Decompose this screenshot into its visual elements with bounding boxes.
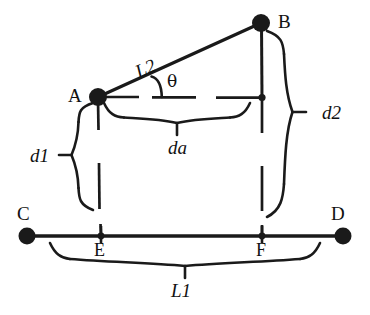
brace-d1 bbox=[59, 103, 93, 210]
dashed-horizontal-ag bbox=[100, 97, 261, 98]
point-label-c: C bbox=[17, 204, 30, 223]
angle-theta-arc bbox=[152, 77, 162, 98]
post-bg-solid bbox=[262, 23, 263, 98]
node-c-marker bbox=[19, 228, 36, 245]
point-label-b: B bbox=[278, 12, 291, 31]
dimension-label-d2: d2 bbox=[322, 103, 341, 122]
node-a-marker bbox=[89, 88, 107, 106]
brace-l1 bbox=[50, 243, 320, 278]
node-g-marker bbox=[258, 94, 265, 101]
dimension-label-da: da bbox=[168, 138, 187, 157]
node-e-marker bbox=[98, 233, 105, 240]
point-label-a: A bbox=[68, 86, 82, 105]
angle-label-theta: θ bbox=[167, 73, 177, 90]
beam-ab-l2 bbox=[98, 23, 261, 97]
node-b-marker bbox=[252, 14, 270, 32]
brace-d2 bbox=[267, 31, 306, 217]
point-label-f: F bbox=[256, 241, 266, 259]
geometry-diagram: A B C D E F L2 L1 d1 d2 da θ bbox=[0, 0, 370, 315]
point-label-d: D bbox=[331, 204, 345, 223]
dimension-label-d1: d1 bbox=[30, 146, 49, 165]
node-d-marker bbox=[335, 228, 352, 245]
point-label-e: E bbox=[94, 241, 105, 259]
dashed-post-ae bbox=[98, 99, 101, 236]
node-f-marker bbox=[259, 233, 266, 240]
brace-da bbox=[104, 103, 250, 135]
dimension-label-l1: L1 bbox=[171, 281, 191, 300]
